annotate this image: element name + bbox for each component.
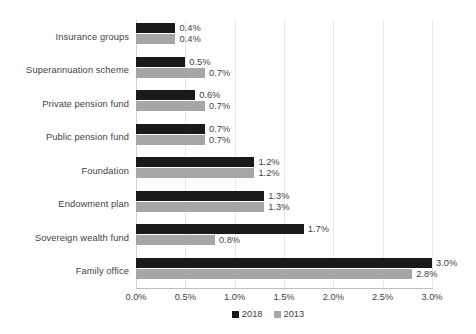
bar-2013: 0.8% (136, 235, 215, 245)
bar-value-label: 1.7% (308, 224, 329, 234)
bar-value-label: 1.3% (268, 202, 289, 212)
category-label: Family office (76, 266, 129, 276)
chart-row: Sovereign wealth fund1.7%0.8% (136, 221, 432, 255)
bar-fill (136, 135, 205, 145)
x-axis-line (136, 288, 433, 289)
chart-row: Insurance groups0.4%0.4% (136, 20, 432, 54)
legend-item-2013[interactable]: 2013 (274, 310, 305, 319)
bar-2018: 1.2% (136, 157, 254, 167)
legend-item-2018[interactable]: 2018 (232, 310, 263, 319)
x-axis-tick-label: 0.5% (175, 292, 196, 302)
bar-2013: 0.4% (136, 34, 175, 44)
chart-row: Foundation1.2%1.2% (136, 154, 432, 188)
bar-value-label: 0.7% (209, 101, 230, 111)
bar-value-label: 1.2% (258, 168, 279, 178)
gridline-3.0% (432, 20, 433, 288)
bar-value-label: 0.8% (219, 235, 240, 245)
category-label: Public pension fund (46, 132, 129, 142)
category-label: Insurance groups (56, 32, 129, 42)
x-axis-tick-label: 2.5% (372, 292, 393, 302)
category-label: Sovereign wealth fund (35, 233, 129, 243)
bar-fill (136, 191, 264, 201)
bar-2018: 1.7% (136, 224, 304, 234)
bar-2018: 0.7% (136, 124, 205, 134)
bar-value-label: 1.3% (268, 191, 289, 201)
bar-value-label: 3.0% (436, 258, 457, 268)
legend-swatch-icon (232, 311, 239, 318)
bar-value-label: 0.7% (209, 68, 230, 78)
chart-row: Superannuation scheme0.5%0.7% (136, 54, 432, 88)
bar-fill (136, 157, 254, 167)
bar-fill (136, 57, 185, 67)
category-label: Foundation (81, 166, 129, 176)
bar-fill (136, 224, 304, 234)
bar-value-label: 0.7% (209, 135, 230, 145)
x-axis-tick-label: 3.0% (421, 292, 442, 302)
x-axis-tick-label: 2.0% (323, 292, 344, 302)
bar-fill (136, 101, 205, 111)
bar-fill (136, 258, 432, 268)
bar-2018: 0.4% (136, 23, 175, 33)
bar-2013: 2.8% (136, 269, 412, 279)
bar-2013: 0.7% (136, 135, 205, 145)
category-label: Private pension fund (42, 99, 129, 109)
bar-fill (136, 235, 215, 245)
chart-row: Private pension fund0.6%0.7% (136, 87, 432, 121)
category-label: Superannuation scheme (26, 65, 129, 75)
bar-chart: Insurance groups0.4%0.4%Superannuation s… (0, 0, 476, 334)
legend-label: 2013 (284, 310, 305, 319)
bar-value-label: 0.4% (179, 34, 200, 44)
bar-2018: 3.0% (136, 258, 432, 268)
chart-row: Endowment plan1.3%1.3% (136, 188, 432, 222)
bar-2018: 1.3% (136, 191, 264, 201)
bar-fill (136, 90, 195, 100)
chart-legend: 20182013 (0, 310, 476, 319)
x-axis-tick-label: 0.0% (125, 292, 146, 302)
bar-value-label: 0.5% (189, 57, 210, 67)
bar-2013: 0.7% (136, 68, 205, 78)
bar-fill (136, 68, 205, 78)
bar-fill (136, 23, 175, 33)
bar-fill (136, 34, 175, 44)
bar-2013: 0.7% (136, 101, 205, 111)
bar-fill (136, 202, 264, 212)
legend-swatch-icon (274, 311, 281, 318)
chart-row: Family office3.0%2.8% (136, 255, 432, 289)
bar-2013: 1.3% (136, 202, 264, 212)
legend-label: 2018 (242, 310, 263, 319)
bar-2018: 0.6% (136, 90, 195, 100)
bar-value-label: 2.8% (416, 269, 437, 279)
bar-value-label: 0.7% (209, 124, 230, 134)
x-axis-tick-label: 1.0% (224, 292, 245, 302)
bar-fill (136, 269, 412, 279)
bar-fill (136, 168, 254, 178)
chart-row: Public pension fund0.7%0.7% (136, 121, 432, 155)
plot-area: Insurance groups0.4%0.4%Superannuation s… (136, 20, 432, 288)
bar-2013: 1.2% (136, 168, 254, 178)
bar-value-label: 0.6% (199, 90, 220, 100)
bar-value-label: 1.2% (258, 157, 279, 167)
x-axis-tick-label: 1.5% (273, 292, 294, 302)
bar-fill (136, 124, 205, 134)
bar-value-label: 0.4% (179, 23, 200, 33)
category-label: Endowment plan (58, 199, 129, 209)
bar-2018: 0.5% (136, 57, 185, 67)
